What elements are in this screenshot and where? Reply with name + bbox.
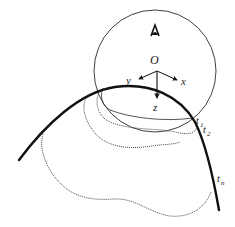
label-tn: t n: [217, 173, 225, 187]
origin-label: O: [150, 53, 159, 67]
axis-z-label: z: [152, 101, 158, 113]
sphere-outline: [94, 10, 216, 132]
svg-text:t: t: [217, 173, 220, 184]
diagram-canvas: O x y z t 1 t 2 t n: [0, 0, 235, 227]
contour-inner: [84, 98, 180, 148]
label-t2: t 2: [203, 124, 211, 138]
eye-icon: [151, 25, 159, 36]
contour-tn: [42, 134, 211, 216]
diagram-svg: O x y z t 1 t 2 t n: [0, 0, 235, 227]
surface-curve: [19, 86, 219, 210]
axis-y-label: y: [125, 74, 131, 86]
svg-text:t: t: [196, 115, 199, 126]
axis-y-arrow: [139, 71, 157, 79]
axis-x-arrow: [157, 71, 177, 80]
svg-text:n: n: [221, 179, 225, 187]
svg-text:t: t: [203, 124, 206, 135]
axis-x-label: x: [180, 75, 186, 87]
coordinate-frame: [139, 71, 177, 98]
contour-t2: [97, 91, 197, 134]
svg-text:2: 2: [207, 130, 211, 138]
